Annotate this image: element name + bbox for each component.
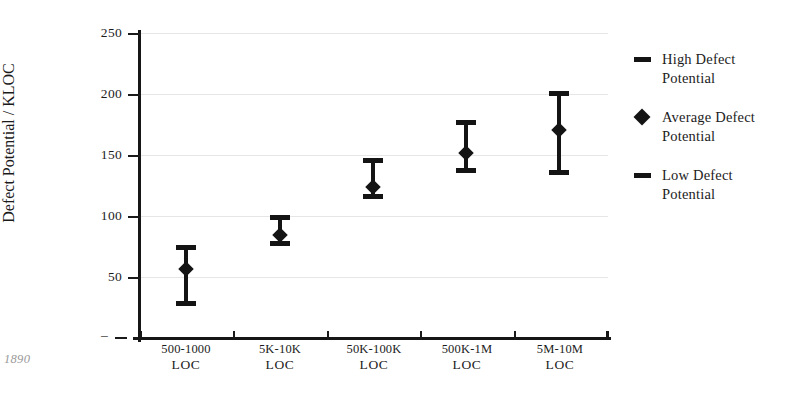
error-bar-cap-low [176, 301, 196, 306]
diamond-marker [551, 122, 567, 138]
diamond-marker [365, 179, 381, 195]
x-axis-label-2-range: 5K-10K [259, 342, 301, 356]
legend-item-low: Low Defect Potential [632, 166, 800, 204]
y-axis-line [138, 30, 141, 342]
y-tick-mark-200 [128, 94, 141, 96]
y-tick-mark-150 [128, 155, 141, 157]
y-tick-label-100: 100 [76, 208, 122, 224]
x-axis-label-5: 5M-10M LOC [505, 342, 615, 372]
legend-item-high-label-line2: Potential [662, 70, 715, 86]
x-tick-sep-1 [233, 331, 235, 340]
legend-item-high-label-line1: High Defect [662, 51, 735, 67]
gridline-150 [141, 155, 608, 156]
y-axis-title-text: Defect Potential / KLOC [0, 63, 17, 223]
chart-legend: High Defect Potential Average Defect Pot… [632, 50, 800, 224]
gridline-250 [141, 33, 608, 34]
error-bar-cap-low [456, 168, 476, 173]
x-axis-label-4-range: 500K-1M [442, 342, 493, 356]
x-axis-label-3-range: 50K-100K [346, 342, 401, 356]
x-axis-label-1-range: 500-1000 [161, 342, 211, 356]
y-tick-mark-0 [115, 337, 127, 339]
x-tick-sep-3 [420, 331, 422, 340]
defect-potential-chart: Defect Potential / KLOC 250 200 150 100 … [0, 0, 805, 394]
x-tick-end [606, 331, 609, 340]
x-axis-label-5-range: 5M-10M [537, 342, 583, 356]
y-tick-label-250: 250 [76, 25, 122, 41]
diamond-icon [634, 109, 651, 126]
legend-item-low-label-line2: Potential [662, 186, 715, 202]
y-tick-label-0: – [62, 327, 108, 343]
gridline-50 [141, 277, 608, 278]
figure-footnote: 1890 [4, 352, 30, 367]
legend-item-average-label-line1: Average Defect [662, 109, 755, 125]
legend-item-average: Average Defect Potential [632, 108, 800, 146]
legend-item-low-label-line1: Low Defect [662, 167, 733, 183]
legend-item-average-label-line2: Potential [662, 128, 715, 144]
error-bar-cap-high [549, 91, 569, 96]
y-tick-mark-250 [128, 33, 141, 35]
error-bar-cap-high [176, 245, 196, 250]
x-tick-sep-4 [514, 331, 516, 340]
y-tick-label-50: 50 [76, 269, 122, 285]
x-axis-line [133, 337, 611, 340]
error-bar-cap-high [363, 158, 383, 163]
dash-icon [634, 173, 651, 178]
x-tick-start [139, 331, 142, 340]
error-bar-cap-high [270, 215, 290, 220]
y-tick-mark-100 [128, 216, 141, 218]
y-axis-title: Defect Potential / KLOC [0, 0, 18, 308]
x-axis-label-5-unit: LOC [505, 357, 615, 372]
error-bar-cap-high [456, 120, 476, 125]
legend-item-high: High Defect Potential [632, 50, 800, 88]
dash-icon [634, 57, 651, 62]
y-tick-label-200: 200 [76, 86, 122, 102]
diamond-marker [458, 145, 474, 161]
y-tick-mark-50 [128, 277, 141, 279]
gridline-100 [141, 216, 608, 217]
error-bar-cap-low [549, 170, 569, 175]
gridline-200 [141, 94, 608, 95]
diamond-marker [178, 261, 194, 277]
y-tick-label-150: 150 [76, 147, 122, 163]
x-tick-sep-2 [327, 331, 329, 340]
